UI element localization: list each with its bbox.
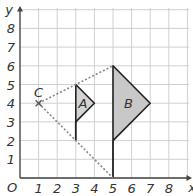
y-axis-arrow-icon: [17, 6, 23, 12]
shape-label-a: A: [78, 96, 88, 111]
y-tick-label: 2: [7, 134, 15, 149]
origin-label: O: [7, 180, 17, 195]
x-tick-label: 2: [53, 181, 61, 196]
y-tick-label: 8: [7, 21, 15, 36]
y-tick-label: 1: [7, 152, 15, 167]
shape-label-b: B: [124, 96, 133, 111]
grid-lines: [20, 8, 189, 178]
y-axis-label: y: [4, 2, 13, 17]
y-tick-label: 5: [7, 78, 15, 93]
y-tick-label: 6: [7, 59, 15, 74]
x-tick-label: 3: [72, 181, 80, 196]
center-label: C: [34, 85, 44, 100]
x-tick-label: 7: [146, 181, 155, 196]
tick-labels: 1234567812345678Oxy: [4, 2, 193, 196]
coordinate-grid: 1234567812345678Oxy AB C: [0, 0, 193, 196]
x-tick-label: 1: [34, 181, 42, 196]
y-tick-label: 7: [7, 40, 16, 55]
y-tick-label: 4: [7, 96, 15, 111]
x-tick-label: 4: [90, 181, 98, 196]
x-tick-label: 6: [127, 181, 135, 196]
axes: [17, 6, 192, 181]
x-tick-label: 8: [165, 181, 173, 196]
y-tick-label: 3: [7, 115, 15, 130]
x-tick-label: 5: [109, 181, 117, 196]
x-axis-label: x: [187, 180, 193, 195]
